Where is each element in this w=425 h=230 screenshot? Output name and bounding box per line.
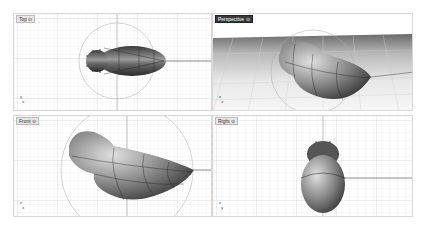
viewport-front[interactable]: Front ⊙ z x — [13, 115, 212, 217]
viewport-label-top[interactable]: Top ⊙ — [16, 15, 35, 23]
viewport-label-perspective[interactable]: Perspective ⊙ — [215, 15, 253, 23]
perspective-view-canvas — [213, 14, 413, 111]
viewport-label-right[interactable]: Right ⊙ — [215, 117, 238, 125]
axis-indicator: z x — [20, 200, 24, 210]
model-body — [301, 155, 345, 213]
viewport-label-front[interactable]: Front ⊙ — [16, 117, 39, 125]
viewport-top[interactable]: Top ⊙ y x — [13, 13, 212, 111]
right-view-canvas — [213, 116, 413, 217]
top-view-canvas — [14, 14, 212, 111]
model-body — [98, 46, 166, 76]
axis-indicator: z y — [219, 200, 223, 210]
viewport-perspective[interactable]: Perspective ⊙ z x — [212, 13, 413, 111]
front-view-canvas — [14, 116, 212, 217]
axis-indicator: z x — [219, 94, 223, 104]
model-head — [86, 50, 108, 72]
viewport-right[interactable]: Right ⊙ z y — [212, 115, 413, 217]
axis-indicator: y x — [20, 94, 24, 104]
